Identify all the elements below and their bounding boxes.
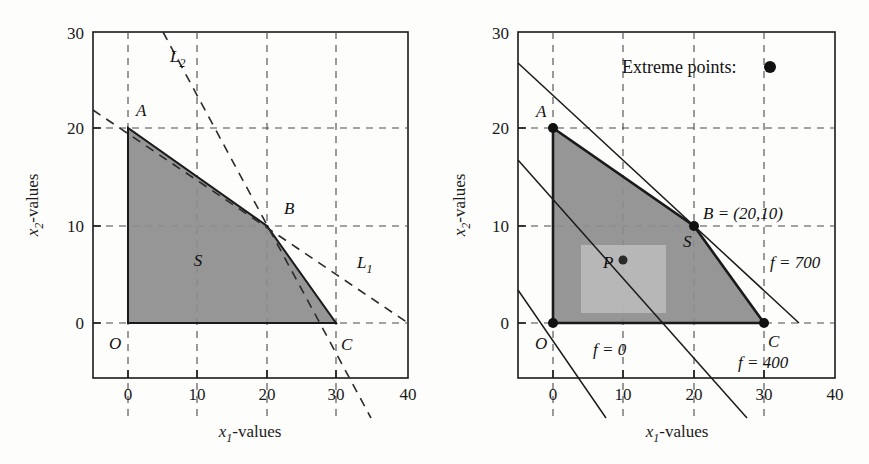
- xtick-label-40: 40: [400, 385, 417, 404]
- annotation-f700: f = 700: [770, 253, 821, 272]
- vertex-label-O: O: [535, 334, 547, 353]
- x-axis-title-rest: -values: [232, 422, 281, 441]
- annotation-f0: f = 0: [593, 340, 627, 359]
- xtick-label-10: 10: [615, 385, 632, 404]
- vertex-label-A: A: [535, 102, 547, 121]
- x-axis-title-rest: -values: [659, 422, 708, 441]
- line-label-L2-base: L: [169, 47, 179, 66]
- extreme-point-B: [689, 221, 699, 231]
- ytick-label-20: 20: [67, 119, 84, 138]
- line-label-L1-sub: 1: [366, 262, 372, 276]
- interior-point-P: [619, 256, 628, 265]
- line-label-L2-sub: 2: [179, 56, 185, 70]
- line-label-L1: L1: [356, 253, 372, 276]
- xtick-label-0: 0: [549, 385, 558, 404]
- xtick-label-20: 20: [259, 385, 276, 404]
- xtick-label-40: 40: [827, 385, 844, 404]
- y-axis-title: x2-values: [23, 174, 46, 238]
- vertex-label-A: A: [135, 101, 147, 120]
- extreme-point-O: [548, 318, 558, 328]
- ytick-label-30: 30: [67, 24, 84, 43]
- ytick-label-0: 0: [501, 314, 510, 333]
- region-label-S: S: [683, 232, 692, 251]
- x-axis-title: x1-values: [645, 422, 709, 445]
- annotation-f400: f = 400: [738, 353, 789, 372]
- y-axis-title-rest: -values: [450, 174, 469, 223]
- left-chart-panel: S O A B C L1 L2 0 10 20 30 40 0 10 20 30: [0, 0, 434, 464]
- extreme-point-C: [759, 318, 769, 328]
- ytick-label-0: 0: [76, 314, 85, 333]
- right-chart-panel: P S O A C B = (20,10) f = 700 f = 0 f = …: [435, 0, 869, 464]
- legend-dot-icon: [764, 61, 776, 73]
- right-plot-svg: P S O A C B = (20,10) f = 700 f = 0 f = …: [435, 0, 869, 464]
- xtick-label-0: 0: [124, 385, 133, 404]
- vertex-label-O: O: [109, 334, 121, 353]
- left-plot-svg: S O A B C L1 L2 0 10 20 30 40 0 10 20 30: [0, 0, 434, 464]
- x-axis-title: x1-values: [218, 422, 282, 445]
- annotation-B-coords: B = (20,10): [703, 204, 783, 223]
- y-axis-title-rest: -values: [23, 174, 42, 223]
- ytick-label-20: 20: [492, 119, 509, 138]
- line-label-L2: L2: [169, 47, 185, 70]
- region-label-S: S: [194, 251, 203, 270]
- extreme-point-A: [548, 123, 558, 133]
- ytick-label-10: 10: [492, 217, 509, 236]
- ytick-label-30: 30: [492, 24, 509, 43]
- legend-label: Extreme points:: [622, 57, 736, 77]
- vertex-label-B: B: [284, 199, 295, 218]
- interior-point-label-P: P: [602, 253, 613, 272]
- xtick-label-30: 30: [328, 385, 345, 404]
- y-axis-title: x2-values: [450, 174, 473, 238]
- xtick-label-20: 20: [686, 385, 703, 404]
- line-label-L1-base: L: [356, 253, 366, 272]
- xtick-label-10: 10: [189, 385, 206, 404]
- xtick-label-30: 30: [756, 385, 773, 404]
- ytick-label-10: 10: [67, 217, 84, 236]
- vertex-label-C: C: [768, 332, 780, 351]
- vertex-label-C: C: [341, 335, 353, 354]
- figure-canvas: S O A B C L1 L2 0 10 20 30 40 0 10 20 30: [0, 0, 869, 464]
